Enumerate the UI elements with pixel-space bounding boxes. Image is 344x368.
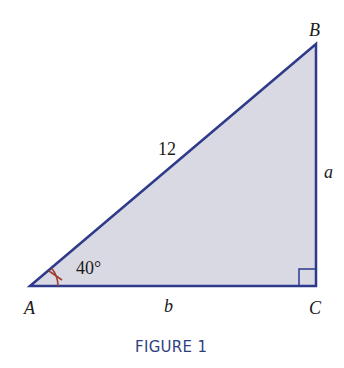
- angle-A-label: 40°: [76, 258, 101, 278]
- triangle-diagram: A B C 12 a b 40° FIGURE 1: [0, 0, 344, 368]
- vertex-label-B: B: [309, 20, 320, 40]
- vertex-label-C: C: [309, 298, 322, 318]
- side-a-label: a: [324, 162, 333, 182]
- vertex-label-A: A: [23, 298, 36, 318]
- right-triangle: [30, 44, 316, 286]
- side-b-label: b: [164, 296, 173, 316]
- figure-caption: FIGURE 1: [135, 338, 207, 356]
- hypotenuse-label: 12: [158, 139, 176, 159]
